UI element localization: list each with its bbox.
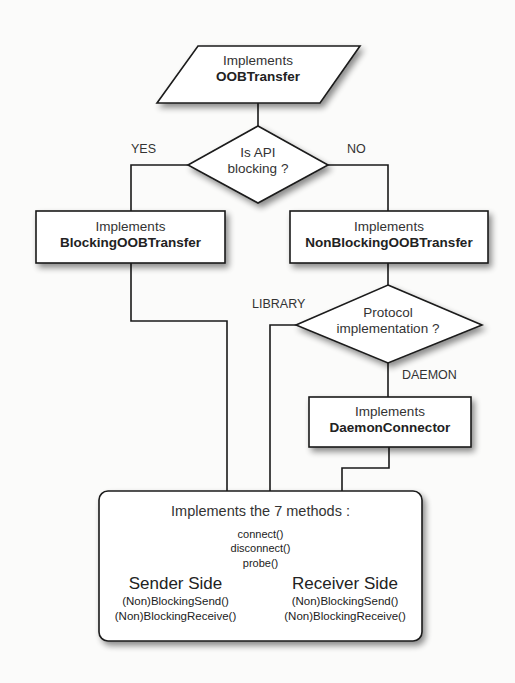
yes-edge-label: YES bbox=[131, 142, 156, 156]
api-decision-line2: blocking ? bbox=[208, 161, 308, 177]
nonblocking-node-class: NonBlockingOOBTransfer bbox=[305, 235, 472, 250]
receiver-method-receive: (Non)BlockingReceive() bbox=[270, 609, 420, 624]
protocol-decision-label: Protocol implementation ? bbox=[318, 305, 458, 337]
no-edge-label: NO bbox=[347, 142, 366, 156]
blocking-node-label: Implements BlockingOOBTransfer bbox=[36, 219, 225, 251]
sender-method-send: (Non)BlockingSend() bbox=[103, 594, 248, 609]
library-edge-label: LIBRARY bbox=[252, 297, 305, 311]
flowchart-shapes bbox=[0, 0, 515, 683]
start-node-line1: Implements bbox=[188, 53, 328, 69]
sender-method-receive: (Non)BlockingReceive() bbox=[103, 609, 248, 624]
blocking-node-class: BlockingOOBTransfer bbox=[60, 235, 201, 250]
method-disconnect: disconnect() bbox=[99, 541, 422, 555]
protocol-decision-line1: Protocol bbox=[318, 305, 458, 321]
protocol-decision-line2: implementation ? bbox=[318, 321, 458, 337]
daemon-node-line1: Implements bbox=[309, 404, 471, 420]
receiver-side-title: Receiver Side bbox=[270, 574, 420, 594]
method-probe: probe() bbox=[99, 556, 422, 570]
start-node-class: OOBTransfer bbox=[216, 69, 300, 84]
api-decision-label: Is API blocking ? bbox=[208, 145, 308, 177]
start-node-label: Implements OOBTransfer bbox=[188, 53, 328, 85]
sender-side-title: Sender Side bbox=[103, 574, 248, 594]
method-connect: connect() bbox=[99, 527, 422, 541]
receiver-method-send: (Non)BlockingSend() bbox=[270, 594, 420, 609]
common-methods-list: connect() disconnect() probe() bbox=[99, 527, 422, 570]
final-node-title: Implements the 7 methods : bbox=[99, 503, 422, 520]
daemon-edge-label: DAEMON bbox=[402, 368, 457, 382]
daemon-node-label: Implements DaemonConnector bbox=[309, 404, 471, 436]
nonblocking-node-line1: Implements bbox=[290, 219, 488, 235]
daemon-node-class: DaemonConnector bbox=[330, 420, 451, 435]
flowchart-canvas: Implements OOBTransfer Is API blocking ?… bbox=[0, 0, 515, 683]
sender-side-section: Sender Side (Non)BlockingSend() (Non)Blo… bbox=[103, 574, 248, 624]
nonblocking-node-label: Implements NonBlockingOOBTransfer bbox=[290, 219, 488, 251]
api-decision-line1: Is API bbox=[208, 145, 308, 161]
receiver-side-section: Receiver Side (Non)BlockingSend() (Non)B… bbox=[270, 574, 420, 624]
blocking-node-line1: Implements bbox=[36, 219, 225, 235]
